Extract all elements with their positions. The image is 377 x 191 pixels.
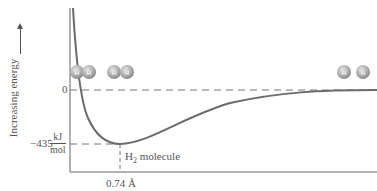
h2-molecule-annotation: H2 molecule [125,150,180,165]
x-tick-bond-length: 0.74 Å [106,177,136,189]
atom-label: H [112,70,116,76]
atom-label: H [342,70,346,76]
plot-area: H H H H H H [0,0,377,191]
atom-label: H [87,70,91,76]
atom-label: H [125,70,129,76]
anno-rest: molecule [137,150,180,162]
atom-label: H [361,70,365,76]
energy-unit: kJ mol [50,131,66,156]
unit-numerator: kJ [50,131,66,144]
atom-label: H [75,70,79,76]
y-tick-zero: 0 [62,83,68,95]
anno-main: H [125,150,133,162]
unit-denominator: mol [50,144,66,155]
